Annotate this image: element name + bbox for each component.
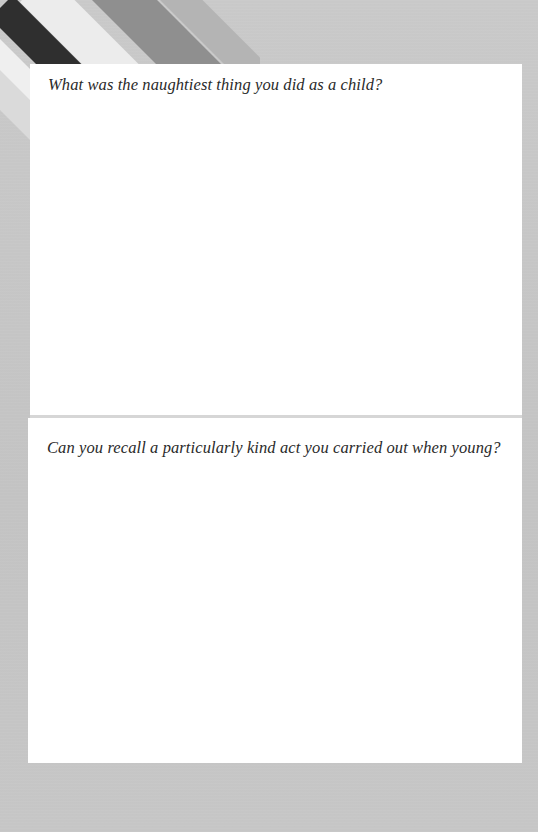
answer-area[interactable] bbox=[48, 108, 504, 398]
journal-section-kind-act[interactable]: Can you recall a particularly kind act y… bbox=[28, 418, 522, 763]
section-prompt: Can you recall a particularly kind act y… bbox=[47, 438, 501, 458]
journal-section-naughtiest[interactable]: What was the naughtiest thing you did as… bbox=[30, 64, 522, 416]
section-prompt: What was the naughtiest thing you did as… bbox=[48, 75, 382, 95]
answer-area[interactable] bbox=[47, 470, 504, 745]
